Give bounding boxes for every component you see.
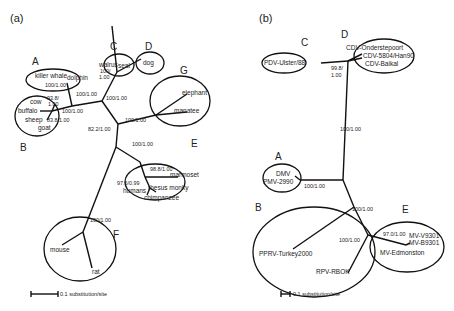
support-value: 100/1.00	[106, 95, 127, 101]
taxon-label: MV-B9301	[409, 239, 440, 246]
taxon-label: seal	[118, 62, 130, 69]
taxon-label: humans	[123, 187, 147, 194]
clade-letter-d: D	[341, 29, 348, 40]
clade-letter-d: D	[145, 41, 152, 52]
support-value: 100/1.00	[90, 217, 111, 223]
taxon-label: MV-V9301	[409, 232, 440, 239]
taxon-label: RPV-RBOK	[316, 268, 350, 275]
phylogenetic-figure: (a)	[0, 0, 454, 311]
taxon-label: goat	[38, 124, 51, 132]
taxon-label: rhesus monky	[148, 184, 189, 192]
taxon-label: dog	[143, 59, 154, 67]
taxon-label: PDV-Ulster/88	[264, 59, 306, 66]
scale-bar-a: 0.1 substitution/site	[31, 291, 107, 297]
support-value: 97.6/0.99	[117, 180, 139, 186]
support-value: 100/1.00	[339, 237, 360, 243]
taxon-label: CDV-Baikal	[365, 60, 399, 67]
support-value: 83.8/1.00	[47, 117, 69, 123]
clade-letter-a: A	[275, 151, 282, 162]
support-value: 100/1.00	[340, 126, 361, 132]
taxon-label: manatee	[174, 107, 200, 114]
taxon-label: buffalo	[18, 107, 38, 114]
support-value: 82.2/1.00	[88, 126, 110, 132]
panel-a-label: (a)	[10, 12, 23, 24]
taxon-label: CDV-Onderstepoort	[346, 44, 403, 52]
taxon-label: cow	[30, 98, 42, 105]
scale-bar-label: 0.1 substitution/site	[60, 291, 107, 297]
taxon-label: marmoset	[170, 171, 199, 178]
taxon-label: elephant	[182, 89, 207, 97]
taxon-label: CDV-5804/Han90	[363, 52, 414, 59]
panel-b-label: (b)	[259, 12, 272, 24]
support-value: 100/1.00	[125, 117, 146, 123]
taxon-label: DMV	[276, 170, 291, 177]
support-value: 1.00	[331, 72, 342, 78]
taxon-label: PMV-2990	[263, 178, 294, 185]
taxon-label: sheep	[25, 116, 43, 124]
taxon-label: mouse	[50, 246, 70, 253]
scale-bar-b: 0.1 substitution/site	[281, 291, 340, 297]
support-value: 1.00	[48, 101, 59, 107]
clade-letter-a: A	[32, 56, 39, 67]
taxon-label: killer whale	[35, 72, 68, 79]
clade-letter-e: E	[191, 138, 198, 149]
panel-b: (b) C D A B E PDV-Ulster/88 CDV-Onderste…	[253, 12, 444, 297]
taxon-label: rat	[92, 268, 100, 275]
clade-letter-g: G	[180, 65, 188, 76]
clade-e-ellipse-b	[370, 222, 444, 272]
clade-letter-e: E	[402, 204, 409, 215]
clade-g-ellipse-a	[150, 76, 210, 126]
panel-a: (a)	[10, 12, 210, 297]
support-value: 99.8/	[331, 65, 343, 71]
support-value: 100/1.00	[76, 91, 97, 97]
clade-letter-c: C	[301, 37, 308, 48]
taxon-label: dolphin	[67, 74, 88, 82]
taxon-label: walrus	[98, 61, 119, 68]
taxon-label: PPRV-Turkey2000	[259, 250, 313, 258]
support-value: 100/1.00	[132, 141, 153, 147]
taxon-label: MV-Edmonston	[380, 249, 425, 256]
taxon-label: chimpanzee	[144, 194, 179, 202]
support-value: 100/1.00	[352, 206, 373, 212]
clade-letter-c: C	[110, 41, 117, 52]
clade-letter-b: B	[20, 142, 27, 153]
support-value: 98.8/1.00	[150, 166, 172, 172]
support-value: 100/1.00	[45, 82, 66, 88]
clade-letter-f: F	[113, 229, 119, 240]
support-value: 100/1.00	[304, 183, 325, 189]
support-value: 100/1.00	[62, 108, 83, 114]
scale-bar-label: 0.1 substitution/site	[293, 291, 340, 297]
clade-letter-b: B	[255, 202, 262, 213]
support-value: 1.00	[99, 74, 110, 80]
support-value: 97.0/1.00	[383, 231, 405, 237]
